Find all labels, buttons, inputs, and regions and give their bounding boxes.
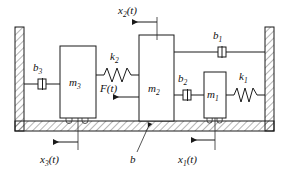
spring-k1-label: k1 bbox=[239, 70, 248, 85]
displacement-x2-label: x2(t) bbox=[117, 4, 137, 19]
displacement-x3-label: x3(t) bbox=[39, 153, 59, 168]
left-wall bbox=[15, 27, 24, 131]
mechanical-system-figure: b3 m3 k2 m2 F(t) bbox=[0, 0, 290, 181]
ground-floor bbox=[15, 121, 274, 131]
damper-b3 bbox=[24, 78, 60, 90]
damper-b2 bbox=[174, 89, 204, 101]
damper-b2-label: b2 bbox=[178, 72, 188, 87]
spring-k2 bbox=[96, 68, 139, 82]
spring-k2-label: k2 bbox=[110, 50, 119, 65]
damper-b1-label: b1 bbox=[213, 29, 222, 44]
right-wall bbox=[265, 27, 274, 131]
damper-b1 bbox=[174, 46, 265, 58]
mass-m2-body bbox=[139, 35, 174, 121]
mass-m2 bbox=[139, 35, 174, 121]
displacement-x1-label: x1(t) bbox=[177, 153, 197, 168]
damper-b3-label: b3 bbox=[33, 61, 43, 76]
force-label: F(t) bbox=[99, 82, 117, 95]
ground-friction-label: b bbox=[130, 153, 136, 165]
schematic-canvas: b3 m3 k2 m2 F(t) bbox=[0, 0, 290, 181]
spring-k1 bbox=[226, 88, 265, 102]
